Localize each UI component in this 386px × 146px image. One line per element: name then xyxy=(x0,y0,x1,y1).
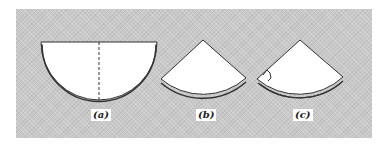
label-a: (a) xyxy=(91,109,111,121)
label-b: (b) xyxy=(196,109,216,121)
shape-b-sector xyxy=(161,40,246,98)
figure-diagram xyxy=(0,0,386,146)
shape-a-semicircle xyxy=(41,42,157,102)
label-c: (c) xyxy=(293,109,313,121)
shape-c-sector xyxy=(257,40,343,98)
